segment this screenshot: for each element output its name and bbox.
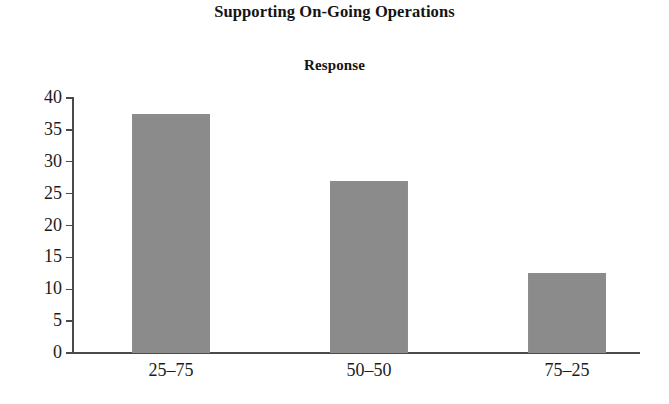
y-axis-tick [66, 225, 73, 226]
y-axis-tick [66, 289, 73, 290]
y-axis-tick [66, 129, 73, 130]
chart-title: Supporting On-Going Operations [0, 2, 669, 22]
y-axis-tick-label: 20 [26, 216, 62, 234]
x-axis-tick-label: 25–75 [111, 360, 231, 380]
y-axis-tick-label: 10 [26, 279, 62, 297]
y-axis-tick-label: 30 [26, 152, 62, 170]
y-axis-tick [66, 320, 73, 321]
y-axis-tick [66, 257, 73, 258]
y-axis-tick-label: 35 [26, 120, 62, 138]
x-axis-tick-label: 75–25 [507, 360, 627, 380]
bar [330, 181, 408, 353]
chart-subtitle: Response [0, 57, 669, 74]
y-axis-tick [66, 352, 73, 353]
y-axis-tick-label: 25 [26, 184, 62, 202]
y-axis-tick-label: 0 [26, 343, 62, 361]
bar [528, 273, 606, 353]
y-axis-tick-label: 40 [26, 88, 62, 106]
y-axis-tick-label: 15 [26, 247, 62, 265]
bar [132, 114, 210, 353]
bar-chart-figure: Supporting On-Going Operations Response … [0, 0, 669, 404]
y-axis-tick [66, 161, 73, 162]
x-axis-tick-label: 50–50 [309, 360, 429, 380]
y-axis-tick-label: 5 [26, 311, 62, 329]
y-axis-tick [66, 97, 73, 98]
y-axis-tick [66, 193, 73, 194]
